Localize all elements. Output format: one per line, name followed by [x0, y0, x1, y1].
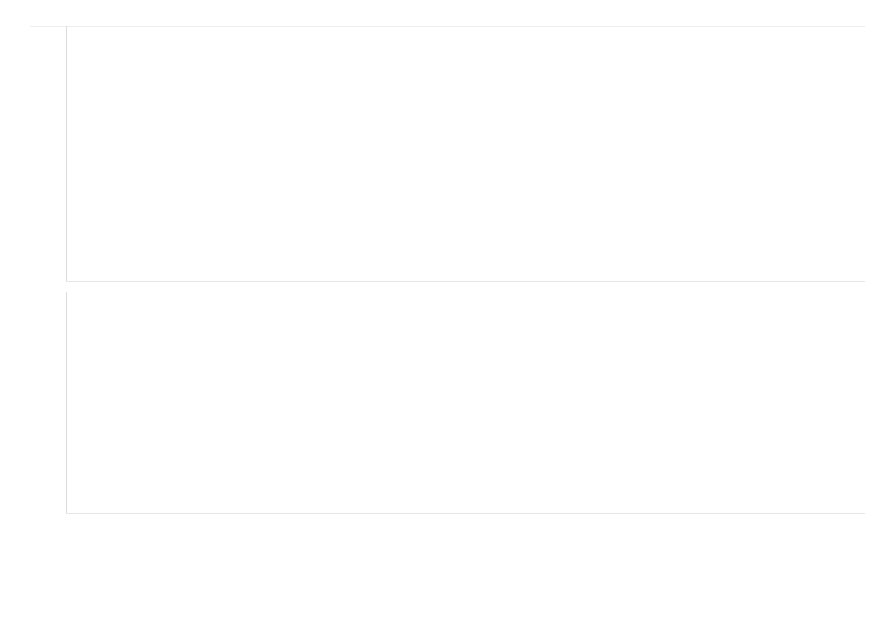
bottom-chart-plot-area: [66, 292, 866, 513]
top-chart-plot-area: [66, 26, 866, 281]
x-axis-tick-labels: [0, 519, 885, 599]
bottom-chart-y-axis: [18, 300, 64, 520]
bottom-chart-baseline: [66, 513, 865, 514]
top-chart-y-axis: [18, 0, 64, 290]
dual-bar-chart-figure: [0, 0, 885, 626]
top-chart-baseline: [66, 281, 865, 282]
